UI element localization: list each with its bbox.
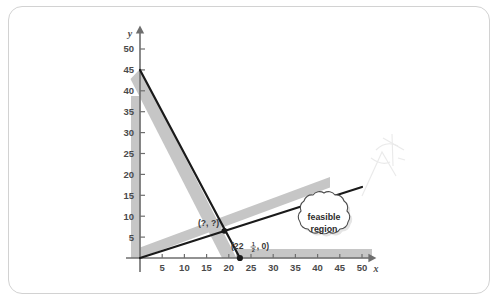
x-tick-label: 50 [357,262,368,273]
intersection-point [222,228,228,234]
callout-line-1: feasible [308,212,341,222]
faint-sketch-mark [362,134,405,196]
x-axis-label: x [373,263,379,274]
x-intercept-point [237,255,243,261]
x-tick-label: 40 [312,262,323,273]
y-tick-label: 25 [123,148,134,159]
x-tick-label: 15 [201,262,212,273]
x-tick-label: 45 [335,262,346,273]
x-tick-label: 5 [160,262,166,273]
x-tick-labels: 5 10 15 20 25 30 35 40 45 50 [160,262,368,273]
y-tick-label: 40 [123,85,134,96]
x-tick-label: 20 [224,262,235,273]
coordinate-plane-svg: 5 10 15 20 25 30 35 40 45 50 5 10 15 20 … [0,0,500,303]
x-tick-label: 35 [290,262,301,273]
x-tick-label: 30 [268,262,279,273]
y-tick-label: 30 [123,127,134,138]
x-intercept-numerator: 1 [252,241,255,247]
y-axis-label: y [127,28,133,39]
y-tick-label: 45 [123,64,134,75]
x-intercept-prefix: (22 [231,241,244,251]
graph-figure: 5 10 15 20 25 30 35 40 45 50 5 10 15 20 … [0,0,500,303]
x-tick-label: 25 [246,262,257,273]
axes [126,32,370,272]
shade-band-steep [131,69,237,258]
y-tick-label: 50 [123,43,134,54]
y-tick-label: 35 [123,106,134,117]
y-tick-label: 5 [129,232,135,243]
x-intercept-denominator: 2 [252,247,255,253]
x-tick-label: 10 [179,262,190,273]
feasible-region-callout: feasible region [298,192,352,237]
x-intercept-suffix: , 0) [257,241,270,251]
callout-line-2: region [311,224,338,234]
y-tick-label: 20 [123,169,134,180]
y-tick-label: 15 [123,190,134,201]
y-tick-label: 10 [123,211,134,222]
intersection-point-label: (?, ?) [198,218,219,228]
